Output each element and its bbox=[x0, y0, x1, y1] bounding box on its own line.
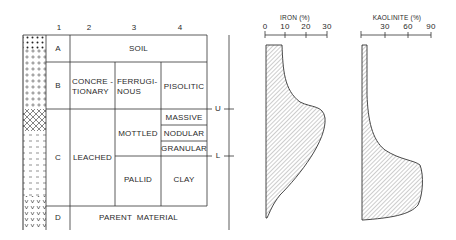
concretionary-cell-line2: TIONARY bbox=[70, 87, 117, 97]
kaolinite-tick-90: 90 bbox=[423, 22, 439, 32]
kaolinite-chart-title: KAOLINITE (%) bbox=[364, 13, 430, 23]
ferruginous-cell-line1: FERRUGI- bbox=[115, 77, 163, 87]
column-number-4: 4 bbox=[174, 23, 186, 33]
pallid-cell: PALLID bbox=[115, 175, 161, 185]
pisolitic-cell: PISOLITIC bbox=[161, 82, 207, 92]
concretionary-cell-line1: CONCRE - bbox=[70, 77, 117, 87]
column-number-2: 2 bbox=[83, 23, 95, 33]
lower-boundary-marker: L bbox=[212, 151, 224, 161]
granular-cell: GRANULAR bbox=[161, 144, 207, 154]
ferruginous-cell-line2: NOUS bbox=[115, 87, 163, 97]
iron-tick-0: 0 bbox=[259, 22, 271, 32]
kaolinite-tick-30: 30 bbox=[377, 22, 393, 32]
horizon-c-label: C bbox=[46, 153, 70, 163]
horizon-a-label: A bbox=[46, 44, 70, 54]
parent-material-cell: PARENT MATERIAL bbox=[70, 213, 207, 223]
leached-cell: LEACHED bbox=[70, 153, 115, 163]
soil-cell: SOIL bbox=[70, 44, 207, 54]
kaolinite-chart bbox=[361, 31, 431, 220]
clay-cell: CLAY bbox=[161, 175, 207, 185]
horizon-d-label: D bbox=[46, 213, 70, 223]
upper-boundary-marker: U bbox=[212, 104, 224, 114]
profile-diagram bbox=[0, 0, 456, 240]
lithology-column bbox=[23, 35, 46, 230]
nodular-cell: NODULAR bbox=[161, 129, 207, 139]
kaolinite-tick-60: 60 bbox=[400, 22, 416, 32]
massive-cell: MASSIVE bbox=[161, 113, 207, 123]
column-number-1: 1 bbox=[53, 23, 65, 33]
iron-chart bbox=[265, 31, 327, 218]
column-number-3: 3 bbox=[128, 23, 140, 33]
iron-tick-30: 30 bbox=[319, 22, 335, 32]
iron-tick-10: 10 bbox=[277, 22, 293, 32]
horizon-b-label: B bbox=[46, 81, 70, 91]
iron-tick-20: 20 bbox=[298, 22, 314, 32]
mottled-cell: MOTTLED bbox=[115, 129, 161, 139]
